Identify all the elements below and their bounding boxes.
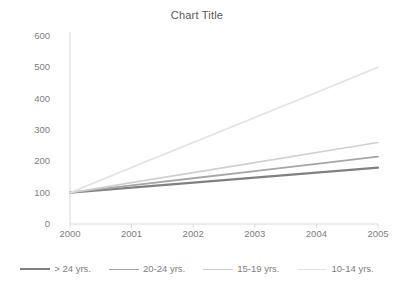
- legend-label: 15-19 yrs.: [237, 264, 279, 274]
- legend-item-3[interactable]: 10-14 yrs.: [297, 264, 373, 274]
- legend-label: > 24 yrs.: [54, 264, 91, 274]
- chart-legend: > 24 yrs.20-24 yrs.15-19 yrs.10-14 yrs.: [0, 264, 394, 274]
- x-axis-tick-label: 2003: [235, 229, 275, 239]
- legend-line-swatch-icon: [297, 269, 327, 270]
- chart-container: Chart Title 0100200300400500600 20002001…: [0, 0, 394, 288]
- legend-line-swatch-icon: [203, 269, 233, 270]
- x-axis-labels: 200020012002200320042005: [0, 0, 394, 288]
- legend-item-0[interactable]: > 24 yrs.: [20, 264, 91, 274]
- x-axis-tick-label: 2000: [50, 229, 90, 239]
- legend-line-swatch-icon: [20, 268, 50, 270]
- x-axis-tick-label: 2005: [358, 229, 394, 239]
- legend-label: 20-24 yrs.: [143, 264, 185, 274]
- legend-item-1[interactable]: 20-24 yrs.: [109, 264, 185, 274]
- x-axis-tick-label: 2002: [173, 229, 213, 239]
- legend-label: 10-14 yrs.: [331, 264, 373, 274]
- legend-item-2[interactable]: 15-19 yrs.: [203, 264, 279, 274]
- x-axis-tick-label: 2001: [112, 229, 152, 239]
- x-axis-tick-label: 2004: [296, 229, 336, 239]
- legend-line-swatch-icon: [109, 269, 139, 270]
